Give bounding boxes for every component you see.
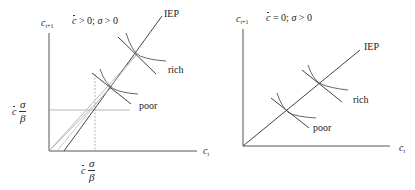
right-y-axis-subscript: t+1 bbox=[240, 19, 248, 25]
right-rich-label: rich bbox=[353, 95, 369, 105]
x-threshold-num: σ bbox=[88, 158, 95, 171]
left-rich-label: rich bbox=[168, 65, 184, 75]
right-iep-label: IEP bbox=[364, 42, 379, 52]
y-threshold-num: σ bbox=[19, 99, 26, 112]
left-poor-indifference-curve bbox=[100, 69, 138, 94]
right-x-axis-label: ct bbox=[399, 143, 405, 154]
right-condition-rel2: > 0 bbox=[296, 12, 312, 23]
left-ray-1 bbox=[49, 88, 111, 151]
right-x-axis-subscript: t bbox=[403, 148, 405, 154]
right-poor-label: poor bbox=[313, 123, 331, 133]
left-x-axis-subscript: t bbox=[207, 151, 209, 157]
left-poor-budget-line bbox=[92, 73, 131, 104]
y-threshold-cbar: c bbox=[12, 107, 16, 117]
right-rich-indifference-curve bbox=[308, 65, 348, 90]
left-panel bbox=[49, 16, 197, 151]
left-condition-rel2: > 0 bbox=[102, 15, 118, 26]
y-threshold-den: β bbox=[20, 112, 25, 124]
left-iep-label: IEP bbox=[164, 9, 179, 19]
left-poor-label: poor bbox=[139, 101, 157, 111]
left-condition-rel1: > 0; bbox=[76, 15, 97, 26]
right-iep-line bbox=[243, 50, 360, 146]
x-threshold-fraction: σβ bbox=[88, 158, 95, 183]
left-ray-3 bbox=[57, 54, 137, 151]
x-threshold-den: β bbox=[89, 171, 94, 183]
left-x-threshold-label: c σβ bbox=[81, 158, 95, 183]
right-poor-indifference-curve bbox=[277, 93, 316, 118]
right-condition-rel1: = 0; bbox=[270, 12, 291, 23]
left-y-axis-subscript: t+1 bbox=[45, 23, 53, 29]
left-cbar-symbol: c bbox=[72, 16, 76, 26]
left-condition-title: c > 0; σ > 0 bbox=[72, 16, 118, 26]
x-threshold-cbar: c bbox=[81, 166, 85, 176]
left-x-axis-label: ct bbox=[203, 146, 209, 157]
left-y-axis-label: ct+1 bbox=[41, 18, 54, 29]
y-threshold-fraction: σβ bbox=[19, 99, 26, 124]
left-y-threshold-label: c σβ bbox=[12, 99, 26, 124]
right-condition-title: c = 0; σ > 0 bbox=[266, 13, 312, 23]
left-ray-2 bbox=[49, 54, 137, 151]
right-rich-budget-line bbox=[302, 70, 342, 102]
right-y-axis-label: ct+1 bbox=[236, 14, 249, 25]
right-cbar-symbol: c bbox=[266, 13, 270, 23]
